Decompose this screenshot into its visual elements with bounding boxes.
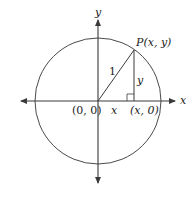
horizontal-leg-label: x [111, 104, 118, 117]
right-angle-marker [127, 94, 134, 101]
unit-circle-diagram: y x P(x, y) 1 y x (0, 0) (x, 0) [0, 0, 192, 197]
point-p-label: P(x, y) [135, 36, 171, 49]
x-axis-label: x [180, 94, 187, 107]
vertical-leg-label: y [136, 74, 144, 87]
origin-label: (0, 0) [72, 104, 102, 117]
radius-line [98, 50, 134, 101]
diagram-svg: y x P(x, y) 1 y x (0, 0) (x, 0) [0, 0, 192, 197]
y-axis-label: y [94, 6, 102, 19]
hypotenuse-label: 1 [109, 65, 116, 78]
foot-label: (x, 0) [130, 104, 159, 117]
